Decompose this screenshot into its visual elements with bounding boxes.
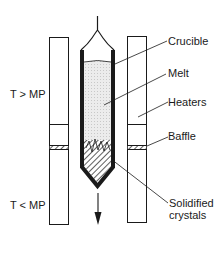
right-baffle (128, 146, 147, 150)
label-solidified-line1: Solidified (169, 197, 214, 209)
crucible-hanger (81, 16, 114, 50)
label-solidified-line2: crystals (169, 209, 206, 221)
label-cold-zone: T < MP (10, 199, 46, 211)
crucible (82, 50, 113, 186)
label-baffle: Baffle (168, 130, 196, 142)
left-baffle (50, 146, 69, 150)
label-heaters: Heaters (168, 96, 207, 108)
label-crucible: Crucible (168, 35, 208, 47)
left-heater (50, 38, 69, 225)
downward-arrow-icon (95, 193, 102, 225)
label-hot-zone: T > MP (10, 88, 46, 100)
right-heater (128, 37, 147, 223)
label-melt: Melt (168, 67, 189, 79)
